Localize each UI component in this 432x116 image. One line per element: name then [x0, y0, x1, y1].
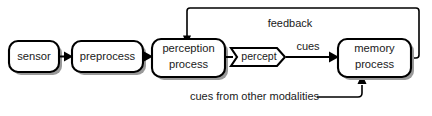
cues-other-path: [317, 85, 362, 97]
memory-label-line2: process: [355, 58, 395, 70]
memory-label-line1: memory: [354, 42, 395, 54]
node-perception-process[interactable]: perception process: [152, 39, 225, 77]
flow-diagram: sensor preprocess perception process: [0, 0, 432, 116]
cues-other-modalities-label: cues from other modalities: [190, 90, 319, 102]
sensor-label: sensor: [17, 50, 51, 62]
node-sensor[interactable]: sensor: [9, 41, 59, 72]
diagram-canvas: sensor preprocess perception process: [0, 0, 432, 116]
preprocess-label: preprocess: [80, 50, 136, 62]
feedback-label: feedback: [268, 17, 313, 29]
node-percept[interactable]: percept: [231, 48, 285, 66]
perception-label-line1: perception: [162, 42, 214, 54]
node-memory-process[interactable]: memory process: [338, 39, 411, 77]
edge-cues: [286, 52, 339, 63]
node-preprocess[interactable]: preprocess: [72, 41, 143, 72]
perception-label-line2: process: [169, 58, 209, 70]
cues-label: cues: [296, 40, 320, 52]
percept-label: percept: [241, 50, 276, 62]
